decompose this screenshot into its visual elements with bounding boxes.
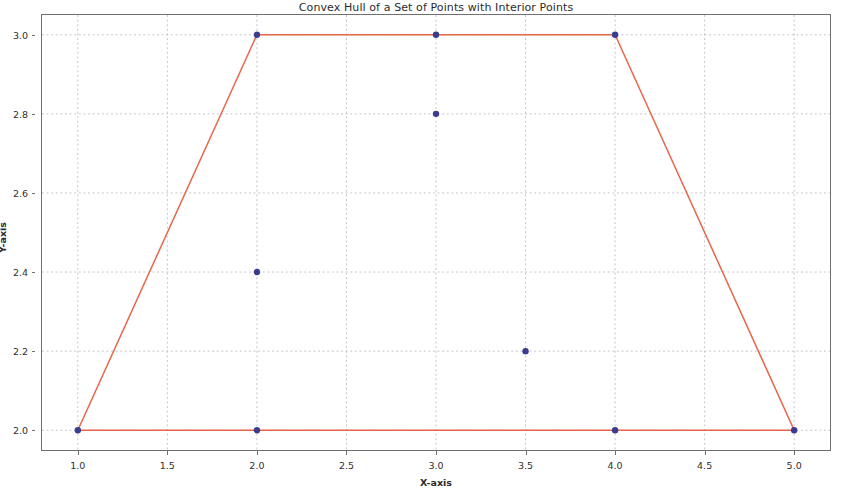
y-tick-label: 3.0	[0, 29, 28, 40]
y-tick-mark	[32, 35, 36, 36]
data-point	[791, 427, 797, 433]
data-point	[254, 269, 260, 275]
x-tick-mark	[78, 451, 79, 455]
x-tick-label: 4.5	[685, 460, 725, 471]
x-tick-mark	[257, 451, 258, 455]
y-axis-tick-labels: 2.02.22.42.62.83.0	[0, 14, 35, 451]
page-title: Convex Hull of a Set of Points with Inte…	[41, 1, 831, 14]
y-tick-mark	[32, 272, 36, 273]
x-tick-label: 2.0	[237, 460, 277, 471]
data-point	[522, 348, 528, 354]
matplotlib-figure: Convex Hull of a Set of Points with Inte…	[0, 0, 854, 497]
y-tick-mark	[32, 430, 36, 431]
x-tick-label: 3.0	[416, 460, 456, 471]
data-point	[433, 111, 439, 117]
plot-area	[41, 14, 831, 451]
x-tick-mark	[794, 451, 795, 455]
y-tick-mark	[32, 351, 36, 352]
grid-lines	[42, 15, 830, 450]
x-tick-label: 1.5	[147, 460, 187, 471]
data-point	[254, 32, 260, 38]
x-tick-mark	[346, 451, 347, 455]
x-tick-mark	[526, 451, 527, 455]
x-tick-label: 2.5	[326, 460, 366, 471]
y-tick-label: 2.8	[0, 108, 28, 119]
chart-canvas	[42, 15, 830, 450]
x-axis-tick-labels: 1.01.52.02.53.03.54.04.55.0	[41, 455, 831, 469]
x-tick-label: 4.0	[595, 460, 635, 471]
y-tick-mark	[32, 114, 36, 115]
x-tick-label: 3.5	[506, 460, 546, 471]
y-tick-label: 2.0	[0, 425, 28, 436]
data-point	[75, 427, 81, 433]
x-tick-mark	[705, 451, 706, 455]
y-tick-label: 2.6	[0, 187, 28, 198]
x-tick-mark	[615, 451, 616, 455]
data-point	[612, 427, 618, 433]
x-tick-mark	[436, 451, 437, 455]
x-axis-label: X-axis	[41, 477, 831, 488]
x-tick-label: 1.0	[58, 460, 98, 471]
y-tick-label: 2.4	[0, 267, 28, 278]
data-point	[433, 32, 439, 38]
x-tick-label: 5.0	[774, 460, 814, 471]
y-tick-mark	[32, 193, 36, 194]
data-point	[254, 427, 260, 433]
data-point	[612, 32, 618, 38]
y-tick-label: 2.2	[0, 346, 28, 357]
x-tick-mark	[167, 451, 168, 455]
